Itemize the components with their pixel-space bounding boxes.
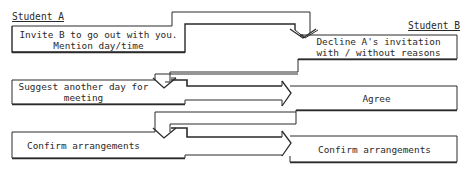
step-a1-line-2: Mention day/time: [12, 40, 185, 51]
step-b3-text: Confirm arrangements: [292, 144, 457, 155]
step-b3-line-1: Confirm arrangements: [292, 144, 457, 155]
step-a2-text: Suggest another day for meeting: [12, 81, 155, 103]
step-a2-line-2: meeting: [12, 92, 155, 103]
step-b1-text: Decline A's invitation with / without re…: [300, 36, 457, 58]
student-b-header: Student B: [408, 20, 460, 31]
step-a1-text: Invite B to go out with you. Mention day…: [12, 29, 185, 51]
arrow-a2-to-b2: [282, 81, 291, 106]
step-a3-line-1: Confirm arrangements: [12, 140, 155, 151]
step-b1-line-2: with / without reasons: [300, 47, 457, 58]
arrow-b2-to-a3: [153, 128, 176, 138]
step-a2-line-1: Suggest another day for: [12, 81, 155, 92]
box-a3-confirm: [12, 112, 296, 159]
arrow-a3-to-b3: [282, 131, 291, 156]
step-b2-line-1: Agree: [296, 93, 457, 104]
step-b1-line-1: Decline A's invitation: [300, 36, 457, 47]
step-b2-text: Agree: [296, 93, 457, 104]
student-a-header: Student A: [12, 11, 64, 22]
step-a3-text: Confirm arrangements: [12, 140, 155, 151]
step-a1-line-1: Invite B to go out with you.: [12, 29, 185, 40]
dialogue-flow-diagram: Student A Student B Invite B to go out w…: [0, 0, 465, 170]
